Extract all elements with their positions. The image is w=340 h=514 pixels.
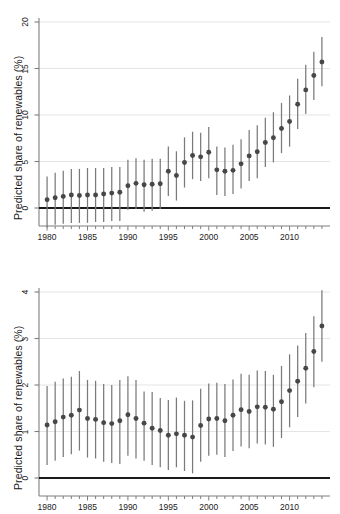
data-point <box>109 191 114 196</box>
x-tick-label: 1990 <box>110 232 146 242</box>
y-tick-label: 5 <box>19 152 31 172</box>
y-tick-label: 20 <box>19 12 31 32</box>
data-point <box>45 423 50 428</box>
data-point <box>255 404 260 409</box>
data-point <box>222 169 227 174</box>
scatter-plot-top <box>0 0 340 257</box>
data-point <box>247 409 252 414</box>
x-tick-label: 2010 <box>272 232 308 242</box>
data-point <box>295 102 300 107</box>
data-point <box>150 182 155 187</box>
error-bars <box>47 37 322 228</box>
y-tick-label: 1 <box>19 422 31 442</box>
data-point <box>117 418 122 423</box>
data-point <box>222 418 227 423</box>
x-tick-label: 1980 <box>29 232 65 242</box>
x-tick-label: 1980 <box>29 502 65 512</box>
data-point <box>150 426 155 431</box>
data-point <box>117 190 122 195</box>
y-tick-label: 0 <box>19 468 31 488</box>
x-tick-label: 1995 <box>150 232 186 242</box>
data-point <box>69 413 74 418</box>
data-point <box>125 183 130 188</box>
data-point <box>125 412 130 417</box>
data-point <box>319 60 324 65</box>
data-point <box>190 153 195 158</box>
x-tick-label: 1995 <box>150 502 186 512</box>
data-point <box>166 169 171 174</box>
x-tick-label: 2005 <box>231 232 267 242</box>
y-tick-label: 0 <box>19 198 31 218</box>
data-point <box>61 415 66 420</box>
x-tick-label: 1985 <box>70 232 106 242</box>
chart-panel-bottom: Predicted share of renewables (%) 012341… <box>0 257 340 514</box>
data-point <box>134 416 139 421</box>
y-tick-label: 15 <box>19 59 31 79</box>
data-point <box>206 416 211 421</box>
data-point <box>303 87 308 92</box>
data-point <box>231 168 236 173</box>
data-point <box>53 195 58 200</box>
data-point <box>77 408 82 413</box>
data-point <box>53 419 58 424</box>
data-point <box>198 154 203 159</box>
data-point <box>319 323 324 328</box>
data-point <box>255 149 260 154</box>
data-point <box>69 193 74 198</box>
data-point <box>101 420 106 425</box>
data-point <box>311 73 316 78</box>
error-bars <box>47 290 322 473</box>
y-tick-label: 2 <box>19 375 31 395</box>
data-point <box>214 167 219 172</box>
data-point <box>247 153 252 158</box>
data-point <box>85 416 90 421</box>
data-point <box>239 161 244 166</box>
data-point <box>287 119 292 124</box>
data-point <box>182 160 187 165</box>
data-point <box>279 126 284 131</box>
data-point <box>174 431 179 436</box>
x-tick-label: 2000 <box>191 232 227 242</box>
data-point <box>142 421 147 426</box>
x-tick-label: 2000 <box>191 502 227 512</box>
data-point <box>206 150 211 155</box>
chart-panel-top: Predicted share of renewables (%) 051015… <box>0 0 340 257</box>
data-point <box>190 435 195 440</box>
data-point <box>158 181 163 186</box>
data-point <box>295 379 300 384</box>
data-point <box>311 349 316 354</box>
data-point <box>279 399 284 404</box>
data-point <box>271 407 276 412</box>
y-tick-label: 10 <box>19 105 31 125</box>
figure-container: Predicted share of renewables (%) 051015… <box>0 0 340 514</box>
data-point <box>239 407 244 412</box>
data-point <box>77 193 82 198</box>
data-point <box>303 366 308 371</box>
data-point <box>263 405 268 410</box>
data-point <box>287 388 292 393</box>
data-point <box>198 423 203 428</box>
data-point <box>109 421 114 426</box>
data-point <box>158 428 163 433</box>
data-point <box>142 182 147 187</box>
data-point <box>101 192 106 197</box>
data-point <box>134 181 139 186</box>
x-tick-label: 1985 <box>70 502 106 512</box>
data-point <box>231 413 236 418</box>
x-tick-label: 1990 <box>110 502 146 512</box>
data-point <box>93 193 98 198</box>
data-point <box>45 197 50 202</box>
data-point <box>61 194 66 199</box>
data-point <box>263 140 268 145</box>
y-tick-label: 3 <box>19 329 31 349</box>
data-point <box>174 173 179 178</box>
data-point <box>214 416 219 421</box>
data-point <box>93 417 98 422</box>
data-point <box>85 193 90 198</box>
x-tick-label: 2010 <box>272 502 308 512</box>
data-point <box>166 433 171 438</box>
data-point <box>271 135 276 140</box>
data-point <box>182 433 187 438</box>
scatter-plot-bottom <box>0 257 340 514</box>
y-tick-label: 4 <box>19 282 31 302</box>
